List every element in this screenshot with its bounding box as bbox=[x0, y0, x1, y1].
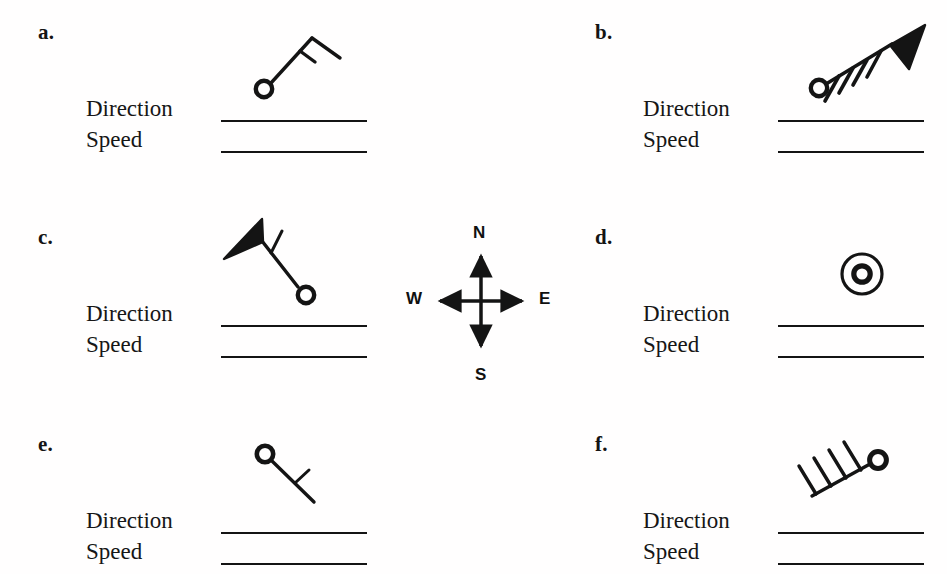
wind-barb-symbol-a bbox=[200, 6, 390, 98]
direction-label-d: Direction bbox=[643, 300, 730, 328]
speed-blank-c[interactable] bbox=[221, 356, 367, 358]
direction-row-c: Direction bbox=[86, 300, 396, 331]
direction-blank-a[interactable] bbox=[221, 120, 367, 122]
wind-barb-symbol-c bbox=[200, 211, 390, 303]
direction-label-c: Direction bbox=[86, 300, 173, 328]
direction-blank-b[interactable] bbox=[778, 120, 924, 122]
speed-row-a: Speed bbox=[86, 126, 396, 157]
compass-label-south: S bbox=[475, 366, 486, 383]
answer-fields-a: Direction Speed bbox=[86, 95, 396, 157]
panel-d: d. Direction Speed bbox=[557, 205, 947, 380]
speed-label-d: Speed bbox=[643, 331, 699, 359]
direction-label-e: Direction bbox=[86, 507, 173, 535]
speed-row-c: Speed bbox=[86, 331, 396, 362]
speed-row-f: Speed bbox=[643, 538, 947, 569]
answer-fields-c: Direction Speed bbox=[86, 300, 396, 362]
wind-barb-symbol-f bbox=[757, 418, 947, 510]
worksheet-page: a. Direction Speed bbox=[0, 0, 947, 574]
wind-barb-symbol-e bbox=[200, 418, 390, 510]
wind-barb-symbol-b bbox=[757, 6, 947, 98]
wind-barb-symbol-d bbox=[757, 211, 947, 303]
panel-f: f. Direction Speed bbox=[557, 412, 947, 574]
speed-label-c: Speed bbox=[86, 331, 142, 359]
direction-row-e: Direction bbox=[86, 507, 396, 538]
direction-label-f: Direction bbox=[643, 507, 730, 535]
direction-blank-c[interactable] bbox=[221, 325, 367, 327]
speed-row-d: Speed bbox=[643, 331, 947, 362]
panel-letter-f: f. bbox=[595, 434, 608, 455]
speed-blank-e[interactable] bbox=[221, 563, 367, 565]
direction-row-b: Direction bbox=[643, 95, 947, 126]
direction-blank-e[interactable] bbox=[221, 532, 367, 534]
speed-blank-d[interactable] bbox=[778, 356, 924, 358]
compass-label-west: W bbox=[406, 290, 422, 307]
speed-label-b: Speed bbox=[643, 126, 699, 154]
compass-label-north: N bbox=[473, 224, 485, 241]
compass-rose: N S W E bbox=[396, 224, 566, 382]
direction-label-a: Direction bbox=[86, 95, 173, 123]
direction-blank-f[interactable] bbox=[778, 532, 924, 534]
speed-blank-f[interactable] bbox=[778, 563, 924, 565]
speed-blank-b[interactable] bbox=[778, 151, 924, 153]
answer-fields-d: Direction Speed bbox=[643, 300, 947, 362]
speed-label-e: Speed bbox=[86, 538, 142, 566]
panel-e: e. Direction Speed bbox=[0, 412, 400, 574]
speed-label-f: Speed bbox=[643, 538, 699, 566]
direction-row-d: Direction bbox=[643, 300, 947, 331]
speed-row-e: Speed bbox=[86, 538, 396, 569]
panel-c: c. Direction Speed bbox=[0, 205, 400, 380]
answer-fields-f: Direction Speed bbox=[643, 507, 947, 569]
speed-label-a: Speed bbox=[86, 126, 142, 154]
speed-blank-a[interactable] bbox=[221, 151, 367, 153]
direction-blank-d[interactable] bbox=[778, 325, 924, 327]
panel-letter-b: b. bbox=[595, 22, 612, 43]
panel-letter-a: a. bbox=[38, 22, 54, 43]
compass-label-east: E bbox=[539, 290, 550, 307]
panel-letter-e: e. bbox=[38, 434, 53, 455]
panel-b: b. Direction Speed bbox=[557, 0, 947, 175]
panel-a: a. Direction Speed bbox=[0, 0, 400, 175]
direction-row-f: Direction bbox=[643, 507, 947, 538]
answer-fields-e: Direction Speed bbox=[86, 507, 396, 569]
speed-row-b: Speed bbox=[643, 126, 947, 157]
panel-letter-d: d. bbox=[595, 227, 612, 248]
panel-letter-c: c. bbox=[38, 227, 53, 248]
direction-row-a: Direction bbox=[86, 95, 396, 126]
direction-label-b: Direction bbox=[643, 95, 730, 123]
answer-fields-b: Direction Speed bbox=[643, 95, 947, 157]
